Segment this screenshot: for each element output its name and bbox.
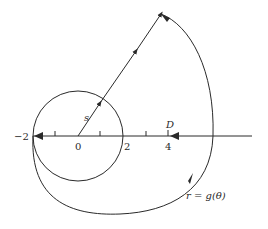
label-minus-two: −2	[14, 131, 29, 142]
diagram-canvas: −2 0 2 4 D s r = g(θ)	[0, 0, 268, 229]
label-s: s	[84, 112, 89, 123]
label-curve: r = g(θ)	[186, 190, 226, 201]
label-zero: 0	[75, 141, 81, 152]
axis-arrow-left	[34, 132, 43, 140]
ray-segment-mid	[100, 51, 136, 103]
ray-segment-outer	[136, 14, 161, 51]
label-two: 2	[124, 141, 130, 152]
curve-arrow-top	[161, 14, 170, 22]
label-four: 4	[165, 141, 171, 152]
curve-r-g-theta	[33, 14, 213, 214]
label-D: D	[165, 119, 174, 130]
axis-ticks	[55, 130, 168, 136]
axis-arrow-right	[170, 132, 179, 140]
curve-arrow-lower	[188, 173, 193, 184]
